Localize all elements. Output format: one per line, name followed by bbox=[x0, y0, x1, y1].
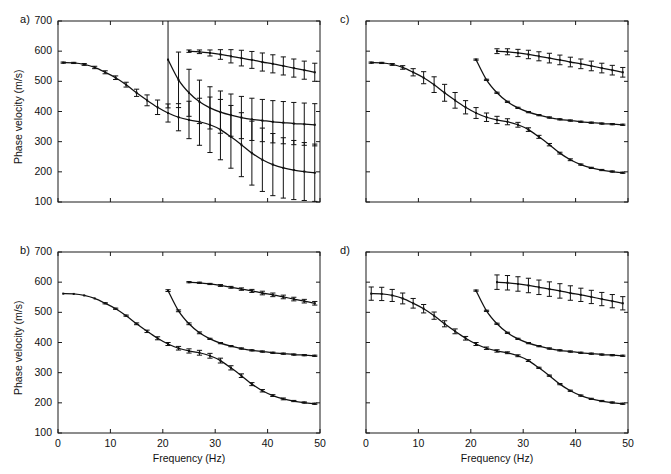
error-bar bbox=[176, 104, 181, 131]
data-point bbox=[444, 323, 446, 325]
error-bar bbox=[599, 354, 604, 355]
data-point bbox=[104, 302, 106, 304]
data-point bbox=[423, 308, 425, 310]
data-point bbox=[251, 152, 253, 154]
error-bar bbox=[589, 167, 594, 168]
y-axis-title: Phase velocity (m/s) bbox=[12, 69, 24, 164]
data-point bbox=[293, 67, 295, 69]
plot-area-d bbox=[0, 0, 671, 474]
error-bar bbox=[281, 398, 286, 400]
error-bar bbox=[218, 99, 223, 159]
data-point bbox=[569, 159, 571, 161]
x-tick-label: 0 bbox=[352, 437, 380, 449]
error-bar bbox=[239, 288, 244, 290]
y-tick-label: 300 bbox=[24, 135, 52, 147]
data-point bbox=[198, 332, 200, 334]
data-point bbox=[115, 77, 117, 79]
error-bar bbox=[610, 295, 615, 308]
error-bar bbox=[71, 62, 76, 63]
data-point bbox=[125, 315, 127, 317]
data-point bbox=[251, 349, 253, 351]
error-bar bbox=[165, 290, 170, 292]
error-bar bbox=[281, 102, 286, 144]
error-bar bbox=[239, 348, 244, 349]
error-bar bbox=[610, 124, 615, 125]
data-point bbox=[506, 51, 508, 53]
data-point bbox=[282, 398, 284, 400]
error-bar bbox=[302, 402, 307, 403]
data-point bbox=[272, 352, 274, 354]
data-point bbox=[548, 144, 550, 146]
y-tick-label: 500 bbox=[24, 74, 52, 86]
curve-second-higher-mode bbox=[189, 51, 315, 72]
data-point bbox=[444, 92, 446, 94]
error-bar bbox=[473, 343, 478, 346]
data-point bbox=[559, 152, 561, 154]
data-point bbox=[527, 53, 529, 55]
data-point bbox=[73, 62, 75, 64]
x-tick-label: 20 bbox=[149, 437, 177, 449]
data-point bbox=[402, 297, 404, 299]
data-point bbox=[240, 375, 242, 377]
error-bar bbox=[557, 119, 562, 120]
error-bar bbox=[291, 297, 296, 301]
data-point bbox=[251, 290, 253, 292]
data-point bbox=[465, 337, 467, 339]
data-point bbox=[433, 315, 435, 317]
error-bar bbox=[557, 152, 562, 154]
error-bar bbox=[526, 128, 531, 132]
data-point bbox=[282, 65, 284, 67]
y-axis-title: Phase velocity (m/s) bbox=[12, 300, 24, 395]
data-point bbox=[569, 120, 571, 122]
error-bar bbox=[165, 104, 170, 122]
error-bar bbox=[610, 65, 615, 75]
data-point bbox=[601, 298, 603, 300]
error-bar bbox=[197, 98, 202, 145]
error-bar bbox=[249, 121, 254, 185]
error-bar bbox=[61, 62, 66, 63]
data-point bbox=[261, 292, 263, 294]
data-point bbox=[496, 281, 498, 283]
error-bar bbox=[505, 276, 510, 290]
error-bar bbox=[536, 346, 541, 347]
error-bar bbox=[186, 50, 191, 52]
error-bar bbox=[207, 338, 212, 339]
error-bar bbox=[134, 89, 139, 96]
data-point bbox=[157, 337, 159, 339]
error-bar bbox=[473, 290, 478, 291]
data-point bbox=[146, 99, 148, 101]
data-point bbox=[94, 297, 96, 299]
data-point bbox=[314, 302, 316, 304]
data-point bbox=[209, 355, 211, 357]
x-axis-title: Frequency (Hz) bbox=[139, 452, 239, 464]
curve-first-higher-mode bbox=[476, 60, 623, 125]
y-tick-label: 500 bbox=[24, 305, 52, 317]
data-point bbox=[136, 323, 138, 325]
data-point bbox=[125, 84, 127, 86]
data-point bbox=[527, 284, 529, 286]
error-bar bbox=[463, 336, 468, 340]
error-bar bbox=[494, 49, 499, 54]
data-point bbox=[517, 107, 519, 109]
data-point bbox=[230, 55, 232, 57]
error-bar bbox=[197, 50, 202, 54]
error-bar bbox=[291, 354, 296, 355]
error-bar bbox=[312, 403, 317, 404]
error-bar bbox=[442, 321, 447, 327]
panel-c: c) bbox=[0, 0, 671, 474]
data-point bbox=[230, 286, 232, 288]
error-bar bbox=[411, 298, 416, 308]
error-bar bbox=[589, 398, 594, 399]
data-point bbox=[517, 338, 519, 340]
data-point bbox=[370, 62, 372, 64]
error-bar bbox=[312, 144, 317, 201]
error-bar bbox=[369, 287, 374, 300]
data-point bbox=[188, 350, 190, 352]
error-bar bbox=[260, 351, 265, 352]
curve-second-higher-mode bbox=[497, 282, 623, 303]
error-bar bbox=[400, 66, 405, 70]
x-tick-label: 40 bbox=[562, 437, 590, 449]
data-point bbox=[219, 53, 221, 55]
error-bar bbox=[281, 138, 286, 198]
data-point bbox=[391, 294, 393, 296]
